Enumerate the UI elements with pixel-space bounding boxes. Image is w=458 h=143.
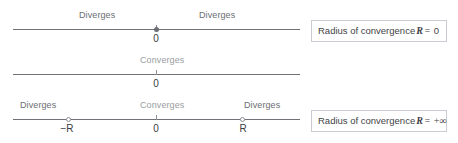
numberline-row-r-zero: Diverges Diverges 0 Radius of convergenc… (0, 2, 458, 48)
callout-prefix: Radius of convergence (318, 25, 415, 36)
region-label-diverges-right: Diverges (199, 10, 235, 21)
region-label-diverges-right: Diverges (244, 100, 280, 111)
radius-of-convergence-figure: Diverges Diverges 0 Radius of convergenc… (0, 0, 458, 143)
axis-value-zero: 0 (153, 33, 159, 45)
tick-mark-zero (156, 115, 157, 120)
callout-box-r-zero: Radius of convergenceR= 0 (311, 20, 447, 42)
region-label-diverges-left: Diverges (79, 10, 115, 21)
tick-mark-zero (156, 70, 157, 75)
callout-symbol-r: R (415, 25, 424, 36)
region-label-diverges-left: Diverges (20, 100, 56, 111)
marker-filled-dot-zero (154, 27, 159, 32)
axis-value-zero: 0 (153, 78, 159, 90)
axis-value-zero: 0 (153, 123, 159, 135)
marker-open-circle-r (240, 117, 245, 122)
region-label-converges-center: Converges (140, 100, 184, 111)
numberline-row-r-infinite: Converges 0 Radius of convergenceR= +∞ (0, 47, 458, 93)
axis-value-r: R (239, 123, 246, 135)
numberline-row-r-finite: Diverges Converges Diverges −R 0 R Radiu… (0, 92, 458, 138)
axis-value-minus-r: −R (60, 123, 73, 135)
callout-value: 0 (434, 25, 439, 36)
callout-text-r-zero: Radius of convergenceR= 0 (312, 25, 439, 37)
callout-relation: = (424, 26, 431, 36)
marker-open-circle-minus-r (66, 117, 71, 122)
region-label-converges-center: Converges (140, 55, 184, 66)
